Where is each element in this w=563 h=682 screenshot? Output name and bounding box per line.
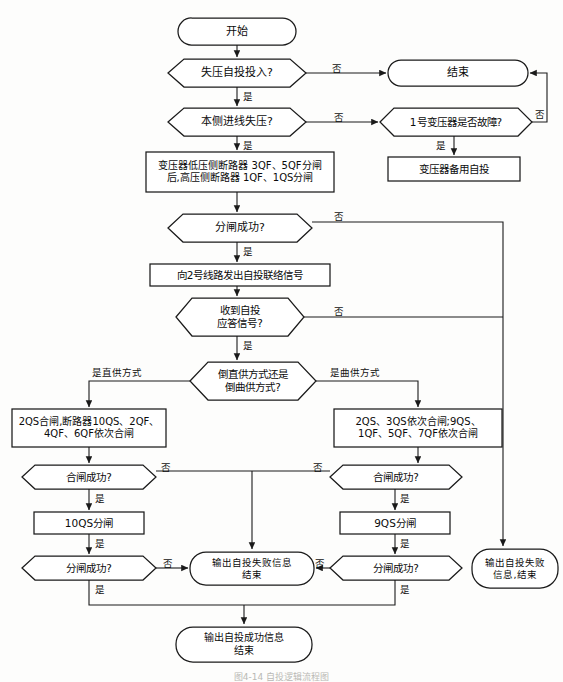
edge-label-enabled-yes: 是 — [243, 89, 253, 103]
node-local-line-loss — [168, 108, 306, 136]
edge-label-enabled-no: 否 — [332, 61, 342, 75]
node-open-success — [168, 214, 312, 242]
node-voltage-loss-enabled — [168, 59, 306, 87]
node-supply-mode — [190, 362, 316, 400]
flowchart-graphics — [0, 0, 563, 682]
edge-label-open10qs-yes: 是 — [95, 536, 105, 550]
edge-label-leftclosesuccess-yes: 是 — [95, 491, 105, 505]
node-send-signal — [150, 264, 330, 286]
figure-caption: 图4-14 自投逻辑流程图 — [0, 670, 563, 682]
flowchart-canvas: 开始 失压自投投入? 结束 本侧进线失压? 1号变压器是否故障? 变压器备用自投… — [0, 0, 563, 682]
edge-label-leftopensuccess-no: 否 — [163, 556, 173, 570]
node-right-open-9qs — [340, 512, 450, 534]
edge-label-rightclosesuccess-yes: 是 — [400, 491, 410, 505]
node-right-open-success — [330, 556, 462, 580]
edge-label-supplymode-left: 是直供方式 — [92, 365, 142, 379]
edge-label-rightopensuccess-no: 否 — [315, 556, 325, 570]
node-right-close — [334, 409, 502, 447]
node-success-end — [176, 627, 312, 662]
edge-label-leftclosesuccess-no: 否 — [161, 460, 171, 474]
edge-label-supplymode-right: 是曲供方式 — [330, 365, 380, 379]
edge-supplymode-left-to-leftclose — [89, 381, 190, 407]
edge-label-localloss-no: 否 — [334, 110, 344, 124]
edge-label-rightopensuccess-yes: 是 — [400, 582, 410, 596]
edge-label-reply-no: 否 — [334, 304, 344, 318]
edge-label-transformerfault-no: 否 — [535, 107, 545, 121]
node-reply-signal — [176, 298, 304, 336]
edge-label-opensuccess-yes: 是 — [243, 244, 253, 258]
node-fail-right — [472, 549, 558, 588]
node-transformer-standby — [388, 157, 520, 181]
node-fail-center — [190, 552, 314, 585]
edge-label-leftopensuccess-yes: 是 — [95, 582, 105, 596]
edge-label-opensuccess-no: 否 — [334, 209, 344, 223]
edge-label-rightclosesuccess-no: 否 — [313, 460, 323, 474]
edge-supplymode-right-to-rightclose — [316, 381, 418, 407]
node-end-top — [388, 60, 528, 86]
node-left-close-success — [22, 465, 156, 489]
edge-label-open9qs-yes: 是 — [400, 536, 410, 550]
node-right-close-success — [330, 465, 462, 489]
node-left-open-10qs — [34, 512, 144, 534]
edge-label-transformerfault-yes: 是 — [436, 138, 446, 152]
edge-label-localloss-yes: 是 — [243, 138, 253, 152]
node-transformer-fault — [380, 108, 532, 136]
node-open-breakers — [146, 152, 334, 192]
edge-label-reply-yes: 是 — [243, 338, 253, 352]
node-left-open-success — [22, 556, 156, 580]
node-start — [178, 18, 296, 45]
node-left-close — [12, 409, 166, 447]
